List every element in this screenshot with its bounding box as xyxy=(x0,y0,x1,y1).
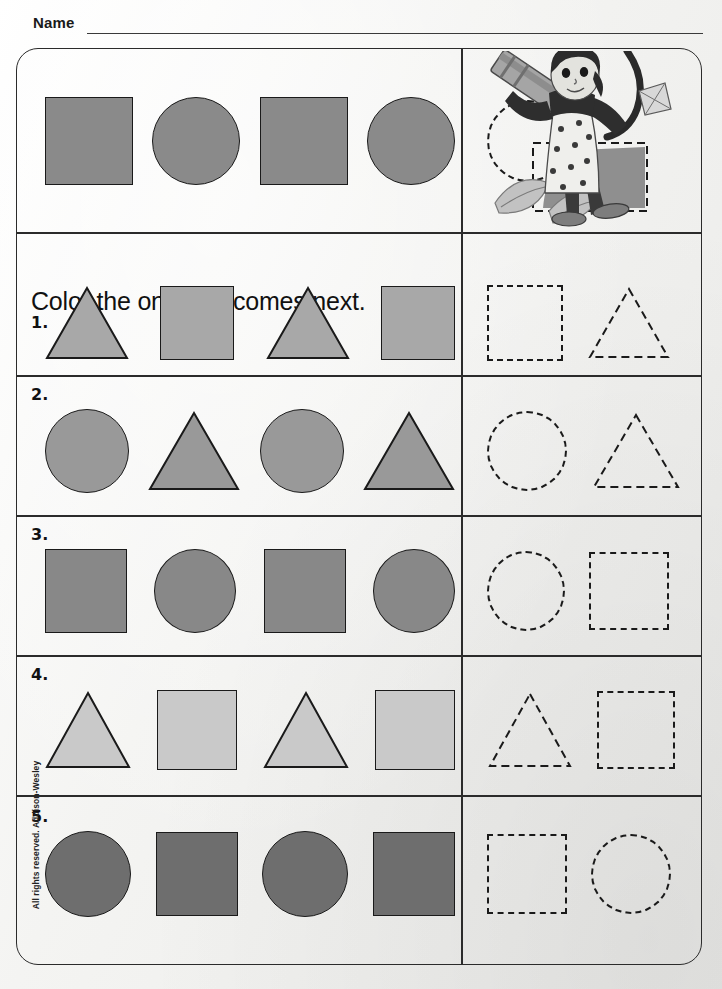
row-number-3: 3. xyxy=(31,525,48,544)
row-4-answers xyxy=(487,685,702,775)
rule-below-example xyxy=(17,232,702,234)
row-5-shape-square-1[interactable] xyxy=(156,832,238,916)
row-1-answers xyxy=(487,283,702,363)
row-4-shape-square-2[interactable] xyxy=(375,690,455,770)
row-5-answers xyxy=(487,829,702,919)
row-2-answer-triangle[interactable] xyxy=(591,411,681,491)
row-4-answer-square[interactable] xyxy=(597,691,675,769)
worksheet-frame: Color the one that comes next. 1. 2. xyxy=(16,48,702,965)
row-1-answer-triangle[interactable] xyxy=(587,285,671,361)
row-number-4: 4. xyxy=(31,665,48,684)
exercise-row-4: 4. xyxy=(17,657,702,795)
name-field-row: Name xyxy=(33,14,703,40)
row-1-pattern xyxy=(45,283,455,363)
row-3-answers xyxy=(487,547,702,635)
exercise-row-3: 3. xyxy=(17,517,702,655)
example-shape-circle-2[interactable] xyxy=(367,97,455,185)
copyright-text: All rights reserved. Addison-Wesley xyxy=(31,745,41,925)
row-4-shape-square-1[interactable] xyxy=(157,690,237,770)
row-4-shape-triangle-1[interactable] xyxy=(45,690,131,770)
row-2-shape-triangle-1[interactable] xyxy=(148,410,240,492)
row-5-pattern xyxy=(45,829,455,919)
row-3-answer-square[interactable] xyxy=(589,552,669,630)
row-1-shape-square-1[interactable] xyxy=(160,286,234,360)
row-5-shape-circle-1[interactable] xyxy=(45,831,131,917)
row-3-pattern xyxy=(45,547,455,635)
exercise-row-5: 5. xyxy=(17,797,702,957)
row-2-shape-circle-2[interactable] xyxy=(260,409,344,493)
row-1-shape-triangle-2[interactable] xyxy=(266,285,350,361)
row-5-answer-square[interactable] xyxy=(487,834,567,914)
name-write-line[interactable] xyxy=(87,33,703,34)
row-number-2: 2. xyxy=(31,385,48,404)
example-shape-square-2[interactable] xyxy=(260,97,348,185)
row-1-shape-triangle-1[interactable] xyxy=(45,285,129,361)
row-3-answer-circle[interactable] xyxy=(487,551,565,631)
example-shape-square-1[interactable] xyxy=(45,97,133,185)
row-1-shape-square-2[interactable] xyxy=(381,286,455,360)
row-3-shape-circle-1[interactable] xyxy=(154,549,236,633)
name-label: Name xyxy=(33,14,75,31)
row-4-pattern xyxy=(45,685,455,775)
example-pattern xyxy=(45,79,455,202)
row-2-shape-circle-1[interactable] xyxy=(45,409,129,493)
exercise-row-2: 2. xyxy=(17,377,702,515)
row-2-answers xyxy=(487,405,702,497)
row-5-answer-circle[interactable] xyxy=(591,834,671,914)
row-5-shape-square-2[interactable] xyxy=(373,832,455,916)
row-2-answer-circle[interactable] xyxy=(487,411,567,491)
row-3-shape-circle-2[interactable] xyxy=(373,549,455,633)
row-5-shape-circle-2[interactable] xyxy=(262,831,348,917)
row-2-pattern xyxy=(45,405,455,497)
exercise-row-1: 1. xyxy=(17,235,702,375)
row-4-answer-triangle[interactable] xyxy=(487,690,573,770)
row-2-shape-triangle-2[interactable] xyxy=(363,410,455,492)
child-with-crayon-illustration xyxy=(487,51,702,229)
row-1-answer-square[interactable] xyxy=(487,285,563,361)
example-shape-circle-1[interactable] xyxy=(152,97,240,185)
row-3-shape-square-2[interactable] xyxy=(264,549,346,633)
row-4-shape-triangle-2[interactable] xyxy=(263,690,349,770)
row-3-shape-square-1[interactable] xyxy=(45,549,127,633)
